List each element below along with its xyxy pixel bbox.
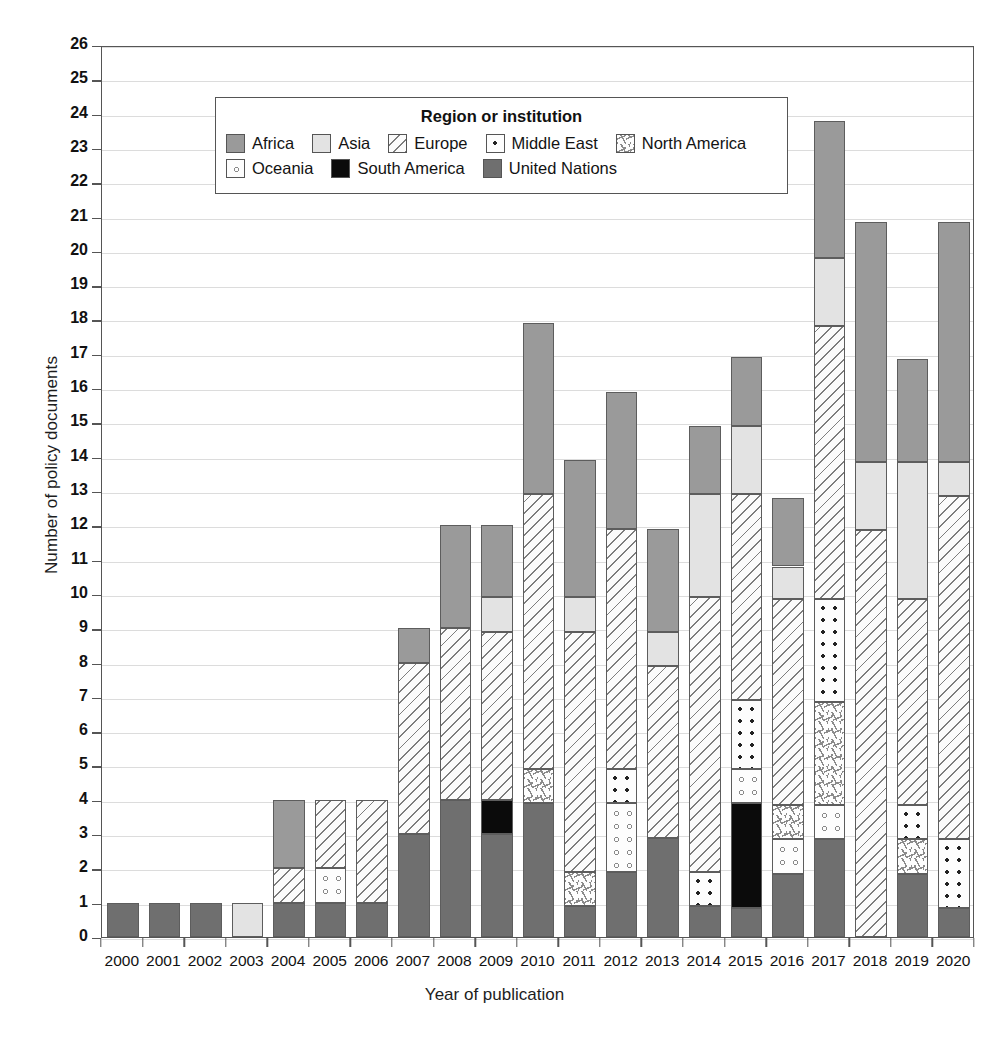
bar-segment-2020-asia[interactable] [938,462,970,496]
bar-segment-2011-asia[interactable] [564,597,596,631]
bar-segment-2009-asia[interactable] [481,597,513,631]
bar-segment-2004-un[interactable] [273,903,305,937]
bar-segment-2010-namerica[interactable] [523,769,555,803]
bar-segment-2005-oceania[interactable] [315,868,347,902]
bar-segment-2016-un[interactable] [772,874,804,937]
y-tick-mark [92,629,101,630]
legend-item-south-america[interactable]: South America [331,159,464,178]
bar-segment-2011-namerica[interactable] [564,872,596,906]
bar-segment-2012-europe[interactable] [606,529,638,769]
bar-segment-2020-un[interactable] [938,908,970,937]
bar-segment-2013-asia[interactable] [647,632,679,666]
bar-segment-2015-africa[interactable] [731,357,763,426]
legend-item-united-nations[interactable]: United Nations [483,159,617,178]
legend-item-asia[interactable]: Asia [312,134,370,153]
bar-segment-2006-europe[interactable] [356,800,388,903]
bar-segment-2017-africa[interactable] [814,121,846,258]
bar-segment-2012-mideast[interactable] [606,769,638,803]
bar-segment-2009-samerica[interactable] [481,800,513,834]
bar-segment-2015-mideast[interactable] [731,700,763,769]
bar-segment-2007-europe[interactable] [398,663,430,835]
bar-2017[interactable] [814,45,846,937]
bar-segment-2015-europe[interactable] [731,494,763,700]
bar-segment-2013-europe[interactable] [647,666,679,838]
bar-segment-2019-asia[interactable] [897,462,929,599]
bar-segment-2008-africa[interactable] [440,525,472,628]
bar-2018[interactable] [855,45,887,937]
legend-item-africa[interactable]: Africa [226,134,294,153]
y-tick-mark [92,526,101,527]
bar-segment-2009-un[interactable] [481,834,513,937]
bar-segment-2016-africa[interactable] [772,498,804,567]
bar-segment-2017-oceania[interactable] [814,805,846,839]
bar-segment-2015-un[interactable] [731,908,763,937]
bar-segment-2008-europe[interactable] [440,628,472,800]
bar-segment-2004-africa[interactable] [273,800,305,869]
bar-2000[interactable] [107,45,139,937]
bar-segment-2012-oceania[interactable] [606,803,638,872]
bar-2019[interactable] [897,45,929,937]
x-tick-label-2008: 2008 [437,952,471,970]
bar-segment-2009-europe[interactable] [481,632,513,800]
legend-item-north-america[interactable]: North America [616,134,747,153]
bar-segment-2003-asia[interactable] [232,903,264,937]
bar-segment-2005-un[interactable] [315,903,347,937]
y-tick-mark [92,595,101,596]
bar-segment-2020-mideast[interactable] [938,839,970,908]
bar-segment-2019-namerica[interactable] [897,839,929,873]
bar-segment-2002-un[interactable] [190,903,222,937]
bar-segment-2014-europe[interactable] [689,597,721,871]
legend-item-middle-east[interactable]: Middle East [486,134,598,153]
bar-segment-2008-un[interactable] [440,800,472,937]
bar-segment-2010-europe[interactable] [523,494,555,768]
y-tick-mark [92,766,101,767]
bar-segment-2001-un[interactable] [149,903,181,937]
bar-segment-2020-europe[interactable] [938,496,970,839]
bar-segment-2020-africa[interactable] [938,222,970,462]
bar-segment-2010-africa[interactable] [523,323,555,495]
bar-segment-2012-un[interactable] [606,872,638,937]
bar-segment-2018-asia[interactable] [855,462,887,531]
bar-segment-2015-asia[interactable] [731,426,763,495]
bar-segment-2017-namerica[interactable] [814,702,846,805]
bar-segment-2019-africa[interactable] [897,359,929,462]
bar-segment-2017-mideast[interactable] [814,599,846,702]
bar-segment-2011-africa[interactable] [564,460,596,597]
bar-segment-2016-europe[interactable] [772,599,804,805]
bar-segment-2017-europe[interactable] [814,326,846,599]
bar-segment-2015-samerica[interactable] [731,803,763,908]
bar-segment-2014-un[interactable] [689,906,721,937]
bar-2001[interactable] [149,45,181,937]
bar-segment-2014-asia[interactable] [689,494,721,597]
bar-segment-2011-un[interactable] [564,906,596,937]
bar-2020[interactable] [938,45,970,937]
bar-segment-2017-asia[interactable] [814,258,846,327]
legend-item-europe[interactable]: Europe [388,134,467,153]
bar-segment-2004-europe[interactable] [273,868,305,902]
legend-item-oceania[interactable]: Oceania [226,159,313,178]
bar-segment-2019-mideast[interactable] [897,805,929,839]
bar-segment-2010-un[interactable] [523,803,555,937]
bar-segment-2011-europe[interactable] [564,632,596,872]
bar-segment-2016-oceania[interactable] [772,839,804,873]
bar-segment-2019-un[interactable] [897,874,929,937]
bar-segment-2016-namerica[interactable] [772,805,804,839]
bar-segment-2006-un[interactable] [356,903,388,937]
bar-segment-2014-africa[interactable] [689,426,721,495]
bar-segment-2012-africa[interactable] [606,392,638,529]
bar-segment-2007-un[interactable] [398,834,430,937]
bar-segment-2019-europe[interactable] [897,599,929,805]
bar-segment-2007-africa[interactable] [398,628,430,662]
bar-segment-2015-oceania[interactable] [731,769,763,803]
x-tick-label-2020: 2020 [936,952,970,970]
bar-segment-2009-africa[interactable] [481,525,513,597]
bar-segment-2017-un[interactable] [814,839,846,937]
bar-segment-2018-europe[interactable] [855,530,887,937]
bar-segment-2000-un[interactable] [107,903,139,937]
bar-segment-2013-africa[interactable] [647,529,679,632]
bar-segment-2016-asia[interactable] [772,567,804,600]
bar-segment-2005-europe[interactable] [315,800,347,869]
bar-segment-2018-africa[interactable] [855,222,887,462]
bar-segment-2014-mideast[interactable] [689,872,721,906]
bar-segment-2013-un[interactable] [647,838,679,937]
